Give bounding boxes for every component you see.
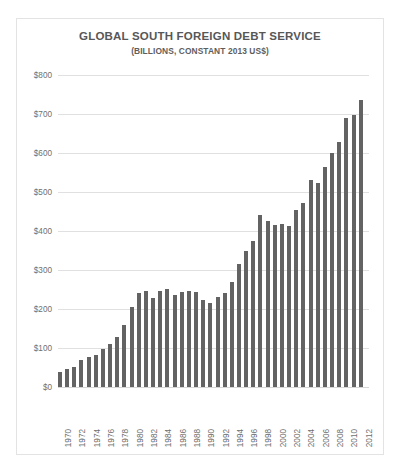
bar — [294, 210, 298, 387]
y-axis-tick-label: $500 — [34, 188, 52, 197]
x-axis-tick-label: 1982 — [150, 429, 159, 447]
bar — [158, 291, 162, 387]
chart-subtitle: (BILLIONS, CONSTANT 2013 US$) — [17, 45, 383, 58]
bar — [151, 298, 155, 387]
bar — [230, 282, 234, 387]
bar — [316, 183, 320, 387]
x-axis-tick-label: 1994 — [236, 429, 245, 447]
bar — [330, 153, 334, 387]
bar — [115, 337, 119, 387]
bar-series — [58, 75, 369, 426]
bar — [201, 300, 205, 387]
chart-card: GLOBAL SOUTH FOREIGN DEBT SERVICE (BILLI… — [16, 18, 384, 455]
x-axis-tick-label: 1986 — [179, 429, 188, 447]
x-axis-tick-label: 1970 — [64, 429, 73, 447]
y-axis-tick-label: $400 — [34, 227, 52, 236]
x-axis-tick-label: 1980 — [136, 429, 145, 447]
bar — [323, 167, 327, 387]
bar — [208, 303, 212, 387]
bar — [337, 142, 341, 387]
bar — [258, 215, 262, 387]
x-axis-tick-label: 1998 — [264, 429, 273, 447]
bar — [194, 292, 198, 387]
bar — [301, 203, 305, 387]
x-axis-tick-label: 2000 — [279, 429, 288, 447]
x-axis-tick-label: 2006 — [322, 429, 331, 447]
y-axis-tick-label: $600 — [34, 149, 52, 158]
x-axis-tick-label: 2008 — [336, 429, 345, 447]
y-axis-tick-label: $800 — [34, 71, 52, 80]
bar — [137, 293, 141, 387]
chart-title: GLOBAL SOUTH FOREIGN DEBT SERVICE — [17, 29, 383, 44]
bar — [144, 291, 148, 387]
y-axis-tick-label: $300 — [34, 266, 52, 275]
x-axis-tick-label: 1972 — [78, 429, 87, 447]
bar — [65, 369, 69, 387]
bar — [237, 264, 241, 387]
bar — [130, 307, 134, 387]
x-axis-tick-label: 2010 — [350, 429, 359, 447]
bar — [352, 115, 356, 387]
bar — [165, 289, 169, 387]
bar — [58, 372, 62, 387]
x-axis-tick-label: 1992 — [222, 429, 231, 447]
plot-area: $0$100$200$300$400$500$600$700$800 — [58, 75, 369, 426]
x-axis-tick-label: 1976 — [107, 429, 116, 447]
bar — [359, 100, 363, 387]
bar — [108, 344, 112, 387]
bar — [101, 349, 105, 387]
chart-title-block: GLOBAL SOUTH FOREIGN DEBT SERVICE (BILLI… — [17, 29, 383, 58]
y-axis-tick-label: $200 — [34, 305, 52, 314]
y-axis-tick-label: $100 — [34, 344, 52, 353]
x-axis-tick-label: 1996 — [250, 429, 259, 447]
x-axis-tick-label: 2002 — [293, 429, 302, 447]
y-axis-tick-label: $0 — [43, 383, 52, 392]
bar — [173, 295, 177, 387]
bar — [216, 297, 220, 387]
x-axis-tick-label: 1990 — [207, 429, 216, 447]
x-axis-tick-label: 1974 — [93, 429, 102, 447]
bar — [79, 360, 83, 387]
bar — [251, 241, 255, 387]
bar — [287, 226, 291, 387]
bar — [309, 180, 313, 387]
bar — [280, 224, 284, 387]
bar — [122, 325, 126, 387]
bar — [344, 118, 348, 387]
bar — [72, 367, 76, 387]
bar — [244, 251, 248, 388]
bar — [87, 357, 91, 387]
x-axis-tick-label: 1988 — [193, 429, 202, 447]
x-axis-tick-label: 2012 — [365, 429, 374, 447]
x-axis-tick-label: 2004 — [307, 429, 316, 447]
bar — [266, 221, 270, 387]
bar — [180, 292, 184, 387]
y-axis-tick-label: $700 — [34, 110, 52, 119]
bar — [187, 291, 191, 387]
x-axis-tick-label: 1978 — [121, 429, 130, 447]
bar — [273, 225, 277, 387]
bar — [94, 355, 98, 387]
x-axis-tick-label: 1984 — [164, 429, 173, 447]
x-axis: 1970197219741976197819801982198419861988… — [58, 429, 369, 469]
bar — [223, 293, 227, 387]
